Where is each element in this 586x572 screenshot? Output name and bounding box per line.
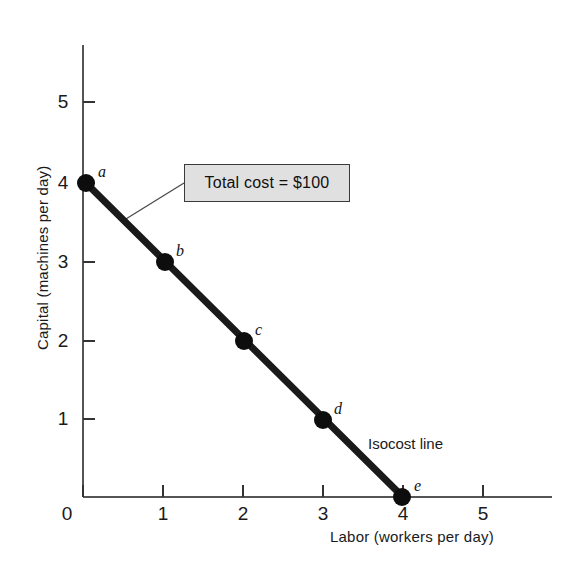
data-point-c (235, 332, 253, 350)
x-tick-label-0: 0 (55, 503, 79, 525)
point-label-d: d (334, 400, 342, 418)
chart-canvas (0, 0, 586, 572)
total-cost-callout-text: Total cost = $100 (205, 174, 330, 192)
y-tick-label-3: 3 (51, 251, 75, 273)
isocost-line-label: Isocost line (368, 435, 443, 452)
y-tick-label-4: 4 (51, 172, 75, 194)
x-tick-label-1: 1 (151, 503, 175, 525)
x-tick-label-4: 4 (391, 503, 415, 525)
point-label-c: c (255, 321, 262, 339)
x-tick-label-3: 3 (311, 503, 335, 525)
y-tick-label-1: 1 (51, 408, 75, 430)
data-point-a (77, 174, 95, 192)
y-tick-label-2: 2 (51, 330, 75, 352)
data-point-d (314, 411, 332, 429)
data-point-b (156, 253, 174, 271)
y-axis-ticks (83, 102, 95, 419)
point-label-b: b (176, 242, 184, 260)
x-axis-title: Labor (workers per day) (330, 528, 494, 545)
x-axis-ticks (83, 485, 483, 497)
isocost-line-chart: Capital (machines per day) Labor (worker… (0, 0, 586, 572)
x-tick-label-2: 2 (231, 503, 255, 525)
point-label-a: a (98, 163, 106, 181)
total-cost-callout: Total cost = $100 (184, 164, 350, 202)
point-label-e: e (414, 477, 421, 495)
callout-leader-line (121, 183, 184, 222)
y-axis-title: Capital (machines per day) (34, 166, 51, 350)
y-tick-label-5: 5 (51, 91, 75, 113)
x-tick-label-5: 5 (471, 503, 495, 525)
